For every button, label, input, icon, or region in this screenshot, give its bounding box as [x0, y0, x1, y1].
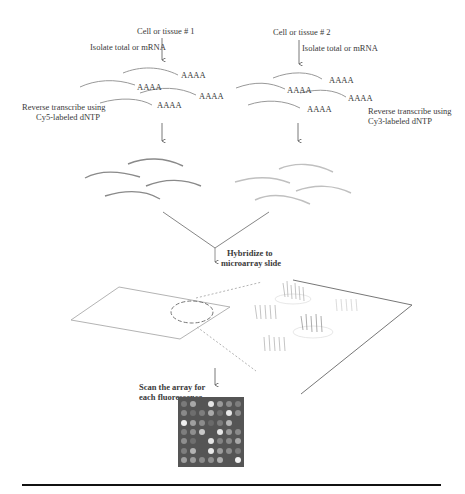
bottom-rule: [22, 484, 441, 486]
array-spot: [199, 438, 205, 444]
array-spot: [226, 410, 232, 416]
array-spot: [235, 448, 241, 454]
cdna-cy3: [235, 164, 351, 204]
array-spot: [208, 448, 214, 454]
scan-label-line1: Scan the array for: [139, 382, 205, 392]
slide-edge-top: [293, 280, 412, 305]
array-spot: [181, 410, 187, 416]
array-spot: [199, 401, 205, 407]
zoom-region-ellipse: [171, 301, 213, 323]
sample1-rt-label-line2: Cy5-labeled dNTP: [22, 112, 100, 122]
sample1-isolate-label: Isolate total or mRNA: [90, 42, 166, 52]
array-spot: [190, 457, 196, 463]
array-spot: [226, 457, 232, 463]
array-spot: [226, 429, 232, 435]
array-spot: [217, 420, 223, 426]
array-spot: [226, 448, 232, 454]
array-spot: [217, 410, 223, 416]
microarray-slide-small: [71, 287, 230, 339]
array-spot: [235, 457, 241, 463]
polya-tail: AAAA: [199, 91, 224, 101]
slide-edge-right: [301, 305, 412, 394]
array-spot: [235, 420, 241, 426]
array-spot: [199, 448, 205, 454]
zoom-line-top: [196, 282, 262, 298]
hybridize-label-line2: microarray slide: [221, 258, 281, 268]
probe-cluster: [293, 314, 333, 338]
array-spot: [199, 429, 205, 435]
array-spot: [181, 420, 187, 426]
merge-line-left: [163, 212, 215, 248]
hybridize-label-line1: Hybridize to: [227, 248, 273, 258]
array-spot: [208, 401, 214, 407]
polya-tail: AAAA: [157, 100, 182, 110]
array-spot: [181, 457, 187, 463]
array-spot: [235, 401, 241, 407]
merge-line-right: [215, 212, 269, 248]
array-spot: [208, 457, 214, 463]
sample2-rt-label-line1: Reverse transcribe using: [368, 106, 452, 116]
array-spot: [181, 401, 187, 407]
scanned-microarray-image: [178, 397, 244, 467]
array-spot: [181, 429, 187, 435]
array-spot: [226, 401, 232, 407]
probe-clusters: [255, 281, 357, 351]
array-spot: [217, 429, 223, 435]
array-spot: [208, 438, 214, 444]
array-spot: [190, 410, 196, 416]
array-spot: [199, 420, 205, 426]
probe-cluster: [275, 281, 311, 304]
array-spot: [226, 438, 232, 444]
sample1-label: Cell or tissue # 1: [137, 26, 195, 36]
array-spot: [190, 420, 196, 426]
polya-tail: AAAA: [137, 82, 162, 92]
array-spot: [217, 438, 223, 444]
polya-tail: AAAA: [181, 70, 206, 80]
probe-cluster: [336, 299, 357, 311]
probe-cluster: [264, 335, 285, 351]
array-spot: [208, 429, 214, 435]
array-spot: [181, 438, 187, 444]
sample1-rt-label-line1: Reverse transcribe using: [22, 102, 100, 112]
sample2-isolate-label: Isolate total or mRNA: [302, 43, 378, 53]
probe-cluster: [255, 305, 276, 319]
array-spot: [235, 438, 241, 444]
sample2-label: Cell or tissue # 2: [273, 27, 331, 37]
array-spot: [199, 457, 205, 463]
array-spot: [190, 438, 196, 444]
sample2-rt-label-line2: Cy3-labeled dNTP: [368, 116, 432, 126]
polya-tail: AAAA: [307, 104, 332, 114]
array-spot: [199, 410, 205, 416]
array-spot: [190, 429, 196, 435]
array-spot: [226, 420, 232, 426]
array-spot: [190, 448, 196, 454]
array-spot: [217, 401, 223, 407]
array-spot: [217, 457, 223, 463]
array-spot: [235, 429, 241, 435]
array-spot: [181, 448, 187, 454]
array-spot: [190, 401, 196, 407]
array-spot: [217, 448, 223, 454]
array-spot: [208, 410, 214, 416]
polya-tail: AAAA: [287, 85, 312, 95]
cdna-cy5: [85, 159, 201, 199]
polya-tail: AAAA: [348, 93, 373, 103]
polya-tail: AAAA: [329, 75, 354, 85]
array-spot: [208, 420, 214, 426]
array-spot: [235, 410, 241, 416]
zoom-line-bottom: [197, 327, 256, 371]
